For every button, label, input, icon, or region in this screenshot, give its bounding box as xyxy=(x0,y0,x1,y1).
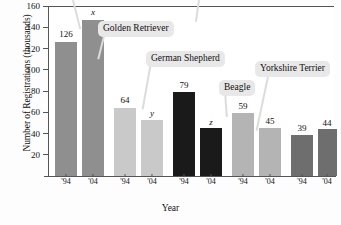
bar-dachshund-04 xyxy=(318,129,337,176)
x-tick-mark xyxy=(183,174,184,177)
bar-value-label: 44 xyxy=(316,118,338,128)
bar-beagle-04 xyxy=(200,128,222,176)
x-tick-mark xyxy=(242,174,243,177)
bar-chart: Number of Registrations (thousands) 160 … xyxy=(0,0,341,225)
x-tick-0: '94 xyxy=(55,177,77,186)
bar-value-label: x xyxy=(82,7,104,17)
x-tick-mark xyxy=(210,174,211,177)
bar-value-label: 45 xyxy=(259,116,281,126)
x-tick-mark xyxy=(65,174,66,177)
x-tick-7: '04 xyxy=(259,177,281,186)
bar-value-label: y xyxy=(141,108,163,118)
x-axis-title: Year xyxy=(0,203,341,213)
bar-value-label: 64 xyxy=(114,95,136,105)
x-tick-3: '04 xyxy=(141,177,163,186)
x-tick-4: '94 xyxy=(173,177,195,186)
bar-dachshund-94 xyxy=(291,135,313,176)
bar-value-label: 59 xyxy=(232,101,254,111)
bar-golden-retriever-94 xyxy=(55,42,77,176)
callout-yorkshire-terrier: Yorkshire Terrier xyxy=(255,61,330,77)
callout-german-shepherd: German Shepherd xyxy=(146,51,225,67)
bar-value-label: 39 xyxy=(291,123,313,133)
x-tick-mark xyxy=(124,174,125,177)
bar-german-shepherd-04 xyxy=(141,120,163,176)
bar-yorkshire-terrier-04 xyxy=(259,128,281,176)
bar-value-label: 79 xyxy=(173,80,195,90)
x-tick-6: '94 xyxy=(232,177,254,186)
x-tick-mark xyxy=(151,174,152,177)
x-tick-2: '94 xyxy=(114,177,136,186)
x-tick-9: '04 xyxy=(316,177,338,186)
bar-yorkshire-terrier-94 xyxy=(232,113,254,176)
bar-german-shepherd-94 xyxy=(114,108,136,176)
bar-value-label: z xyxy=(200,117,222,127)
callout-beagle: Beagle xyxy=(219,80,255,96)
x-tick-8: '94 xyxy=(291,177,313,186)
bar-value-label: 126 xyxy=(55,29,77,39)
x-tick-5: '04 xyxy=(200,177,222,186)
bar-beagle-94 xyxy=(173,92,195,176)
x-tick-1: '04 xyxy=(82,177,104,186)
x-tick-mark xyxy=(301,174,302,177)
x-tick-mark xyxy=(269,174,270,177)
x-tick-mark xyxy=(326,174,327,177)
callout-golden-retriever: Golden Retriever xyxy=(98,21,174,37)
x-tick-mark xyxy=(92,174,93,177)
